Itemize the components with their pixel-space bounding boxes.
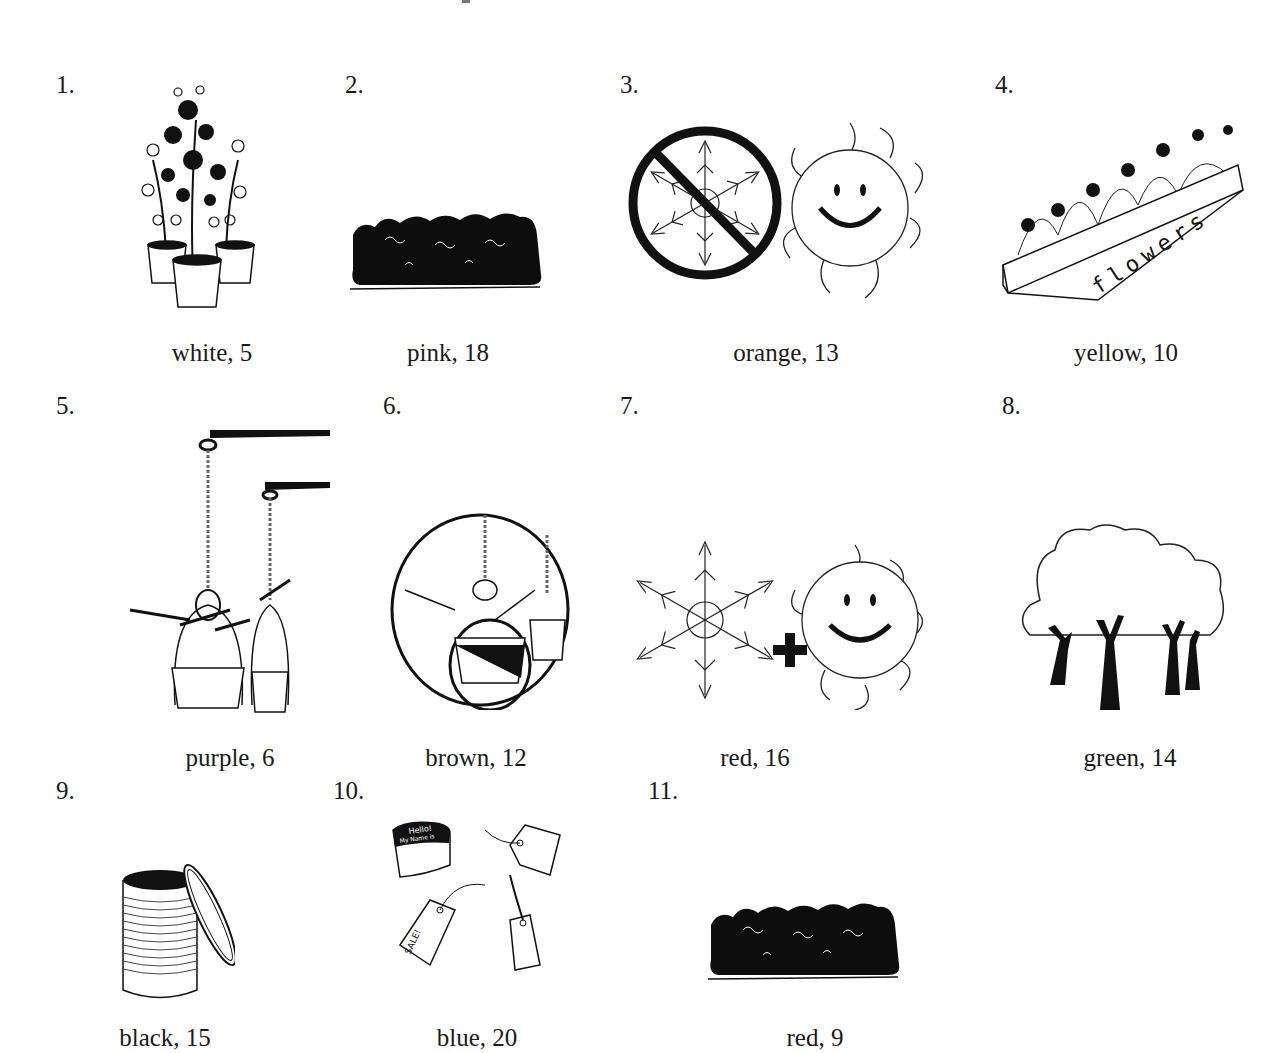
item-number-9: 9.	[56, 778, 75, 803]
item-number-7: 7.	[620, 393, 639, 418]
item-caption-7: red, 16	[720, 745, 789, 770]
item-number-2: 2.	[345, 72, 364, 97]
item-caption-11: red, 9	[787, 1025, 844, 1050]
item-number-8: 8.	[1002, 393, 1021, 418]
clipped-heading-fragment	[462, 0, 470, 3]
item-caption-4: yellow, 10	[1074, 340, 1178, 365]
potted-plants-icon	[128, 80, 258, 310]
item-caption-3: orange, 13	[733, 340, 839, 365]
flower-box-icon: flowers	[998, 115, 1248, 305]
item-number-4: 4.	[995, 72, 1014, 97]
hanging-baskets-icon	[120, 420, 335, 715]
item-number-11: 11.	[648, 778, 678, 803]
item-number-6: 6.	[383, 393, 402, 418]
item-number-5: 5.	[56, 393, 75, 418]
item-caption-10: blue, 20	[437, 1025, 518, 1050]
hanging-baskets-circle-icon	[385, 510, 575, 710]
item-caption-6: brown, 12	[425, 745, 526, 770]
tin-can-icon	[115, 855, 235, 1005]
item-caption-1: white, 5	[172, 340, 253, 365]
item-caption-2: pink, 18	[407, 340, 489, 365]
item-number-10: 10.	[333, 778, 364, 803]
item-caption-9: black, 15	[119, 1025, 211, 1050]
no-snowflake-and-sun-icon	[625, 108, 945, 308]
item-caption-5: purple, 6	[186, 745, 275, 770]
item-number-3: 3.	[620, 72, 639, 97]
item-number-1: 1.	[56, 72, 75, 97]
tags-icon: Hello! My Name is SALE!	[385, 815, 585, 990]
hedge-icon	[345, 205, 545, 297]
item-caption-8: green, 14	[1083, 745, 1176, 770]
trees-icon	[1010, 520, 1235, 720]
hedge-icon-2	[703, 895, 903, 987]
snowflake-plus-sun-icon	[625, 540, 945, 710]
